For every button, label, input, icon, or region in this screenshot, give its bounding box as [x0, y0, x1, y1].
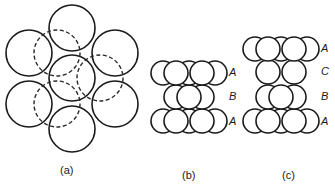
sphere-layer-b-dashed [77, 55, 123, 101]
layer-b-dashed-circles [34, 30, 123, 127]
layer-label-b-bottom-a: A [229, 116, 236, 127]
sphere-layer-a [92, 30, 138, 76]
stack-layer-a [151, 61, 227, 85]
sphere-front [282, 109, 306, 133]
sphere-front [282, 37, 306, 61]
stack-layer-a [151, 109, 227, 133]
caption-panel-b: (b) [182, 170, 195, 181]
stack-layer-b [256, 85, 306, 109]
layer-label-c-bottom-a: A [321, 116, 328, 127]
panel-b-hcp-stacking [151, 61, 227, 133]
layer-a-solid-circles [6, 5, 138, 152]
sphere-front [164, 61, 188, 85]
sphere-front [256, 60, 280, 84]
stack-layer-c [256, 60, 306, 84]
sphere-front [256, 109, 280, 133]
panel-a-top-view [6, 5, 138, 152]
figure-stage: (a) (b) (c) A B A A C B A [0, 0, 335, 188]
sphere-layer-a [49, 5, 95, 51]
sphere-front [164, 109, 188, 133]
sphere-layer-b-dashed [34, 81, 80, 127]
sphere-layer-b-dashed [34, 30, 80, 76]
stack-layer-a [243, 37, 319, 61]
sphere-layer-a [92, 81, 138, 127]
layer-label-b-mid-b: B [229, 91, 236, 102]
sphere-front [269, 85, 293, 109]
sphere-layer-a [49, 106, 95, 152]
layer-label-c-b: B [321, 91, 328, 102]
caption-panel-c: (c) [282, 170, 295, 181]
sphere-front [190, 109, 214, 133]
sphere-front [190, 61, 214, 85]
sphere-front [282, 60, 306, 84]
layer-label-c-c: C [321, 66, 329, 77]
stack-layer-b [164, 85, 214, 109]
sphere-layer-a [49, 55, 95, 101]
sphere-layer-a [6, 81, 52, 127]
layer-label-c-top-a: A [321, 43, 328, 54]
sphere-front [256, 37, 280, 61]
sphere-packing-diagram [0, 0, 335, 188]
sphere-layer-a [6, 30, 52, 76]
caption-panel-a: (a) [60, 165, 73, 176]
stack-layer-a [243, 109, 319, 133]
layer-label-b-top-a: A [229, 67, 236, 78]
panel-c-ccp-stacking [243, 37, 319, 133]
sphere-front [177, 85, 201, 109]
